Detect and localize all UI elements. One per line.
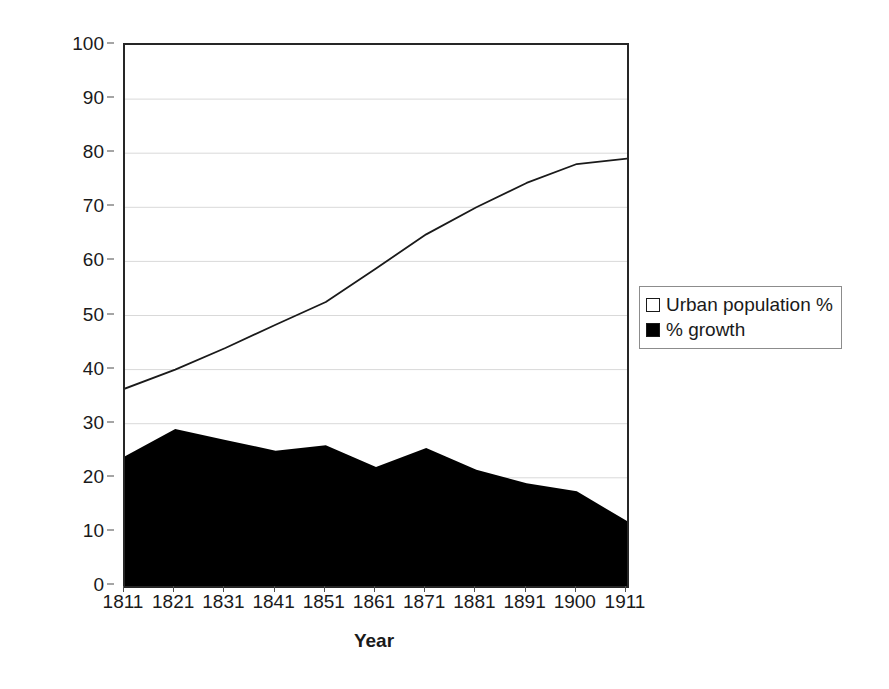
x-tick-mark (625, 586, 626, 592)
y-tick-label: 20 (83, 466, 104, 485)
chart-legend: Urban population % % growth (639, 286, 842, 349)
x-tick-label: 1911 (605, 592, 646, 611)
x-tick-label: 1851 (303, 592, 345, 611)
x-tick-label: 1861 (353, 592, 395, 611)
x-tick-mark (474, 586, 475, 592)
series-percent-growth-area (125, 429, 627, 586)
x-tick-mark (223, 586, 224, 592)
legend-item-percent-growth[interactable]: % growth (646, 317, 833, 342)
x-axis-title: Year (123, 630, 625, 652)
plot-svg (125, 45, 627, 586)
chart-figure: Urban population % and growth 1009080706… (0, 0, 889, 689)
y-tick-mark (107, 313, 114, 314)
y-tick-mark (107, 151, 114, 152)
legend-swatch-hollow-square-icon (646, 298, 660, 312)
series-urban-population-line (125, 159, 627, 389)
x-axis-tick-labels: 1811182118311841185118611871188118911900… (123, 592, 625, 622)
y-tick-label: 80 (83, 142, 104, 161)
y-tick-label: 60 (83, 250, 104, 269)
y-tick-mark (107, 584, 114, 585)
y-tick-mark (107, 43, 114, 44)
y-axis-tick-labels: 1009080706050403020100 (52, 43, 114, 584)
y-tick-mark (107, 97, 114, 98)
legend-label-urban-population: Urban population % (666, 295, 833, 314)
x-tick-label: 1831 (202, 592, 244, 611)
y-tick-label: 100 (72, 34, 104, 53)
y-tick-label: 10 (83, 520, 104, 539)
x-tick-mark (274, 586, 275, 592)
y-tick-mark (107, 529, 114, 530)
y-tick-mark (107, 421, 114, 422)
y-tick-mark (107, 367, 114, 368)
y-tick-mark (107, 205, 114, 206)
x-tick-label: 1821 (152, 592, 194, 611)
legend-item-urban-population[interactable]: Urban population % (646, 292, 833, 317)
y-tick-label: 50 (83, 304, 104, 323)
x-tick-mark (575, 586, 576, 592)
x-tick-label: 1871 (403, 592, 445, 611)
y-tick-label: 90 (83, 88, 104, 107)
x-tick-mark (374, 586, 375, 592)
x-tick-mark (173, 586, 174, 592)
y-tick-mark (107, 259, 114, 260)
x-tick-mark (424, 586, 425, 592)
y-tick-label: 40 (83, 358, 104, 377)
x-tick-label: 1811 (103, 592, 144, 611)
x-tick-label: 1881 (453, 592, 495, 611)
x-tick-mark (324, 586, 325, 592)
x-tick-label: 1841 (252, 592, 294, 611)
x-tick-label: 1891 (503, 592, 545, 611)
plot-area (123, 43, 629, 588)
y-tick-mark (107, 475, 114, 476)
legend-label-percent-growth: % growth (666, 320, 745, 339)
legend-swatch-filled-square-icon (646, 323, 660, 337)
x-tick-mark (123, 586, 124, 592)
y-tick-label: 70 (83, 196, 104, 215)
x-tick-label: 1900 (554, 592, 596, 611)
y-tick-label: 30 (83, 412, 104, 431)
x-tick-mark (525, 586, 526, 592)
